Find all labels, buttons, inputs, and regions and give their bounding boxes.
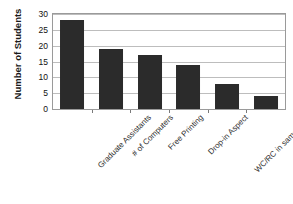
x-axis-tick-label: Drop-in Aspect — [207, 113, 250, 156]
x-axis-tick-label: # of Computers — [130, 113, 175, 158]
bar-chart: Number of Students 051015202530 Graduate… — [0, 0, 293, 204]
x-axis-tick-labels: Graduate Assistants# of ComputersFree Pr… — [0, 0, 293, 204]
x-axis-tick-label: WC/RC in same room — [253, 113, 293, 174]
